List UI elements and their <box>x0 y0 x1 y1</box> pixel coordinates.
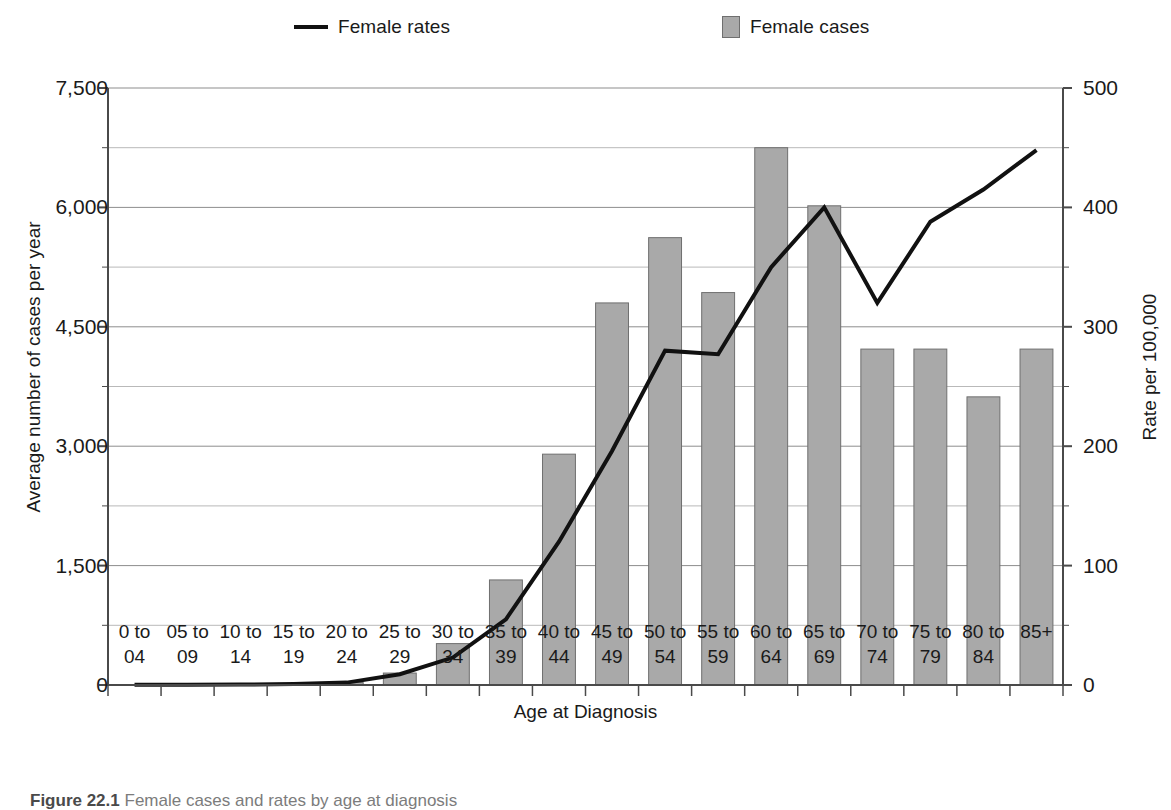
x-tick-75-to-79: 75 to79 <box>909 619 951 669</box>
y-right-tick-500: 500 <box>1083 76 1118 100</box>
bar-65-to-69 <box>808 206 841 685</box>
line-series-female-rates <box>135 150 1037 685</box>
y-left-tick-3000: 3,000 <box>55 434 108 458</box>
x-tick-60-to-64: 60 to64 <box>750 619 792 669</box>
y-right-tick-200: 200 <box>1083 434 1118 458</box>
y-left-tick-1500: 1,500 <box>55 554 108 578</box>
x-tick-40-to-44: 40 to44 <box>538 619 580 669</box>
bar-series-female-cases <box>277 148 1053 685</box>
y-axis-right-title: Rate per 100,000 <box>1139 177 1161 557</box>
x-tick-50-to-54: 50 to54 <box>644 619 686 669</box>
x-tick-10-to-14: 10 to14 <box>219 619 261 669</box>
x-tick-85+: 85+ <box>1020 619 1052 644</box>
x-tick-80-to-84: 80 to84 <box>962 619 1004 669</box>
x-tick-0-to-04: 0 to04 <box>119 619 151 669</box>
x-tick-25-to-29: 25 to29 <box>379 619 421 669</box>
bar-60-to-64 <box>755 148 788 685</box>
square-swatch-icon <box>722 16 740 38</box>
y-axis-left-title: Average number of cases per year <box>23 137 45 597</box>
y-right-tick-400: 400 <box>1083 195 1118 219</box>
x-tick-45-to-49: 45 to49 <box>591 619 633 669</box>
y-right-tick-100: 100 <box>1083 554 1118 578</box>
legend-label-female-cases: Female cases <box>750 16 869 38</box>
y-left-tick-7500: 7,500 <box>55 76 108 100</box>
figure-caption-body: Female cases and rates by age at diagnos… <box>125 794 458 810</box>
x-tick-30-to-34: 30 to34 <box>432 619 474 669</box>
x-tick-65-to-69: 65 to69 <box>803 619 845 669</box>
x-tick-55-to-59: 55 to59 <box>697 619 739 669</box>
y-right-tick-300: 300 <box>1083 315 1118 339</box>
bar-50-to-54 <box>649 238 682 685</box>
y-right-tick-0: 0 <box>1083 673 1095 697</box>
line-marker-icon <box>294 25 328 29</box>
figure-caption: Figure 22.1 Female cases and rates by ag… <box>0 794 1171 810</box>
x-tick-05-to-09: 05 to09 <box>166 619 208 669</box>
legend-item-female-rates: Female rates <box>294 16 450 38</box>
x-tick-70-to-74: 70 to74 <box>856 619 898 669</box>
x-tick-20-to-24: 20 to24 <box>326 619 368 669</box>
y-left-tick-0: 0 <box>96 673 108 697</box>
figure-caption-text: Figure 22.1 Female cases and rates by ag… <box>30 794 457 810</box>
x-tick-35-to-39: 35 to39 <box>485 619 527 669</box>
chart-legend: Female rates Female cases <box>0 0 1171 56</box>
legend-item-female-cases: Female cases <box>722 16 869 38</box>
chart-area: Average number of cases per year Rate pe… <box>0 56 1171 756</box>
legend-label-female-rates: Female rates <box>338 16 450 38</box>
y-left-tick-4500: 4,500 <box>55 315 108 339</box>
x-tick-15-to-19: 15 to19 <box>273 619 315 669</box>
y-left-tick-6000: 6,000 <box>55 195 108 219</box>
x-axis-title: Age at Diagnosis <box>0 701 1171 723</box>
figure-caption-label: Figure 22.1 <box>30 794 120 810</box>
